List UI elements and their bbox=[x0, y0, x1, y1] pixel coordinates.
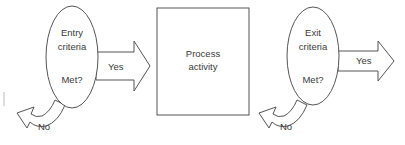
entry-line2: criteria bbox=[58, 41, 87, 52]
exit-line1: Exit bbox=[305, 27, 321, 38]
exit-no-label: No bbox=[280, 121, 292, 132]
entry-line1: Entry bbox=[61, 27, 83, 38]
entry-criteria-decision bbox=[46, 6, 98, 108]
entry-no-label: No bbox=[38, 121, 50, 132]
exit-yes-label: Yes bbox=[356, 55, 372, 66]
entry-line3: Met? bbox=[61, 74, 82, 85]
exit-line2: criteria bbox=[299, 41, 328, 52]
edge-mark bbox=[3, 92, 5, 106]
entry-yes-label: Yes bbox=[108, 61, 124, 72]
flow-diagram: No Yes Entry criteria Met? Process activ… bbox=[0, 0, 405, 145]
exit-line3: Met? bbox=[302, 74, 323, 85]
exit-criteria-decision bbox=[287, 7, 339, 105]
process-line2: activity bbox=[188, 61, 217, 72]
process-line1: Process bbox=[186, 48, 221, 59]
